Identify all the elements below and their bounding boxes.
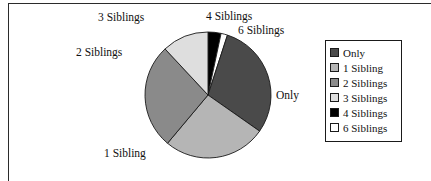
pie-chart-figure: Only 1 Sibling 2 Siblings 3 Siblings 4 S… xyxy=(0,0,431,181)
legend-item: 1 Sibling xyxy=(330,60,397,75)
legend-item: 6 Siblings xyxy=(330,120,397,135)
legend-item: Only xyxy=(330,45,397,60)
legend-swatch-icon xyxy=(330,108,339,117)
pie-label-6-siblings: 6 Siblings xyxy=(238,24,284,37)
legend-item: 2 Siblings xyxy=(330,75,397,90)
pie-slice-group xyxy=(145,32,271,158)
legend-swatch-icon xyxy=(330,48,339,57)
legend-item: 4 Siblings xyxy=(330,105,397,120)
chart-legend: Only1 Sibling2 Siblings3 Siblings4 Sibli… xyxy=(325,40,402,142)
legend-item: 3 Siblings xyxy=(330,90,397,105)
legend-swatch-icon xyxy=(330,63,339,72)
legend-swatch-icon xyxy=(330,78,339,87)
legend-item-label: 2 Siblings xyxy=(343,77,387,89)
legend-swatch-icon xyxy=(330,123,339,132)
pie-label-only: Only xyxy=(276,89,299,102)
legend-item-label: 4 Siblings xyxy=(343,107,387,119)
pie-label-1-sibling: 1 Sibling xyxy=(104,147,146,160)
pie-label-4-siblings: 4 Siblings xyxy=(206,10,252,23)
legend-swatch-icon xyxy=(330,93,339,102)
pie-label-3-siblings: 3 Siblings xyxy=(98,11,144,24)
legend-item-label: 3 Siblings xyxy=(343,92,387,104)
legend-item-label: 1 Sibling xyxy=(343,62,383,74)
legend-item-label: 6 Siblings xyxy=(343,122,387,134)
legend-item-label: Only xyxy=(343,47,365,59)
pie-label-2-siblings: 2 Siblings xyxy=(76,46,122,59)
